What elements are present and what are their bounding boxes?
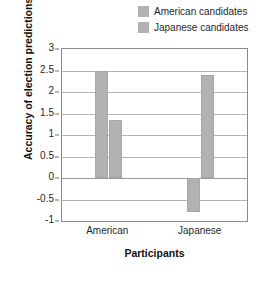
chart-figure: American candidates Japanese candidates … [0, 0, 259, 282]
y-axis-tick-mark [55, 221, 59, 222]
y-axis-tick-mark [55, 135, 59, 136]
plot-area [61, 48, 248, 222]
bar [201, 75, 214, 178]
x-axis-tick-label: American [86, 225, 128, 236]
y-axis-tick-mark [55, 178, 59, 179]
legend-swatch-japanese-candidates [138, 22, 149, 33]
y-axis-tick-mark [55, 92, 59, 93]
y-axis-tick-mark [55, 156, 59, 157]
bar [109, 120, 122, 178]
x-axis-ticks: AmericanJapanese [61, 225, 248, 239]
gridline [62, 178, 247, 179]
x-axis-tick-label: Japanese [178, 225, 221, 236]
legend-label-american-candidates: American candidates [154, 6, 247, 17]
bar [187, 178, 200, 212]
y-axis-tick-mark [55, 199, 59, 200]
plot-inner [62, 49, 247, 221]
y-axis-tick-label: 2 [48, 86, 54, 96]
gridline [62, 114, 247, 115]
legend-item-american-candidates: American candidates [138, 4, 258, 19]
gridline [62, 71, 247, 72]
y-axis-tick-label: 0 [48, 172, 54, 182]
x-axis-title: Participants [61, 247, 248, 259]
gridline [62, 200, 247, 201]
y-axis-tick-label: 1 [48, 129, 54, 139]
gridline [62, 157, 247, 158]
y-axis-ticks: 32.521.510.50-0.5-1 [28, 48, 59, 222]
y-axis-tick-label: -0.5 [37, 194, 54, 204]
chart-legend: American candidates Japanese candidates [138, 4, 258, 36]
y-axis-tick-mark [55, 49, 59, 50]
y-axis-tick-label: 2.5 [40, 65, 54, 75]
y-axis-tick-label: 1.5 [40, 108, 54, 118]
y-axis-tick-label: 3 [48, 43, 54, 53]
y-axis-tick-label: -1 [45, 215, 54, 225]
y-axis-tick-mark [55, 70, 59, 71]
gridline [62, 135, 247, 136]
y-axis-tick-label: 0.5 [40, 151, 54, 161]
bar [95, 71, 108, 178]
legend-label-japanese-candidates: Japanese candidates [154, 22, 249, 33]
legend-item-japanese-candidates: Japanese candidates [138, 20, 258, 35]
y-axis-tick-mark [55, 113, 59, 114]
legend-swatch-american-candidates [138, 6, 149, 17]
gridline [62, 92, 247, 93]
